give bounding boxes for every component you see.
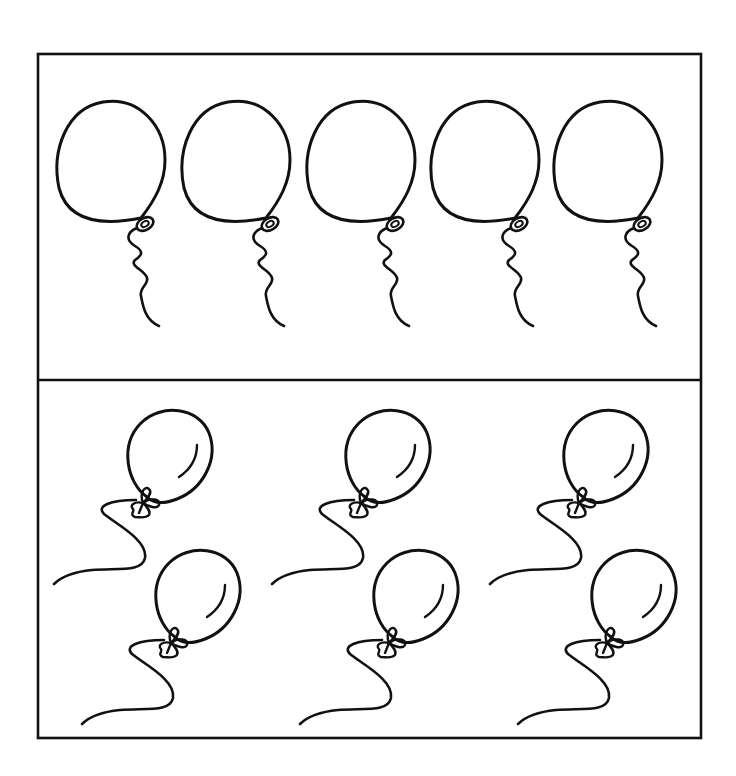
balloon-worksheet (0, 0, 736, 776)
bottom-panel (54, 410, 676, 724)
balloon-icon (128, 410, 212, 517)
balloon-icon (156, 550, 240, 657)
balloon-icon (182, 101, 290, 326)
balloon-pair (490, 410, 676, 724)
balloon-pair (54, 410, 240, 724)
worksheet-frame (38, 54, 701, 738)
balloon-icon (431, 101, 539, 326)
balloon-icon (554, 101, 662, 326)
balloon-icon (57, 101, 165, 326)
balloon-icon (307, 101, 415, 326)
top-panel (57, 101, 662, 326)
balloon-pair (272, 410, 458, 724)
